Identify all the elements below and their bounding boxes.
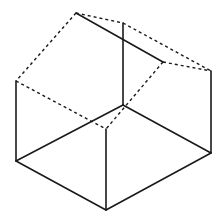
hidden-edge-CG <box>106 62 163 129</box>
hidden-edge-AE <box>16 13 76 81</box>
hidden-edge-AB <box>76 13 123 23</box>
visible-edge-IJ <box>106 153 211 210</box>
box-wireframe-diagram <box>0 0 224 220</box>
visible-edge-HF <box>16 105 123 161</box>
visible-edge-FJ <box>123 105 211 153</box>
visible-edge-HI <box>16 161 106 210</box>
